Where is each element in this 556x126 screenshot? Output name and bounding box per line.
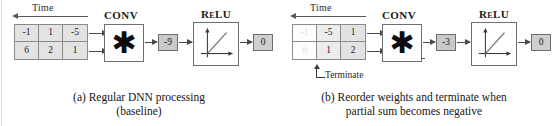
caption-a-line-1: (a) Regular DNN processing <box>0 90 278 104</box>
terminate-leader-vertical <box>316 70 317 77</box>
matrix-cell: 1 <box>39 25 63 42</box>
relu-block-b <box>471 22 517 66</box>
arrow-partialsum-to-relu-a <box>179 42 192 43</box>
time-arrowhead-left-icon <box>12 13 18 19</box>
scan-artifact-mark <box>421 58 425 59</box>
terminate-label: Terminate <box>325 70 363 80</box>
weight-matrix-a: -1 1 -5 6 2 1 <box>14 24 88 60</box>
relu-block-a <box>193 22 239 66</box>
caption-b-line-2: partial sum becomes negative <box>272 104 556 118</box>
time-line-a <box>18 16 88 17</box>
matrix-row: 6 1 2 <box>293 42 365 59</box>
caption-a: (a) Regular DNN processing (baseline) <box>0 90 278 118</box>
conv-title-b: CONV <box>382 9 416 21</box>
arrow-relu-to-output-a <box>240 42 252 43</box>
arrow-partialsum-to-relu-b <box>457 42 470 43</box>
time-label-a: Time <box>32 2 54 13</box>
matrix-row: 6 2 1 <box>15 42 87 59</box>
matrix-cell: -1 <box>15 25 39 42</box>
time-line-b <box>296 16 366 17</box>
matrix-row: -1 -5 1 <box>293 25 365 42</box>
relu-curve-icon <box>194 23 238 65</box>
caption-a-line-2: (baseline) <box>0 104 278 118</box>
matrix-cell: 1 <box>63 42 87 59</box>
relu-title-b: ReLU <box>479 8 509 20</box>
relu-curve-icon <box>472 23 516 65</box>
caption-b: (b) Reorder weights and terminate when p… <box>272 90 556 118</box>
conv-block-b: ✱ <box>382 24 422 62</box>
matrix-cell: -5 <box>317 25 341 42</box>
matrix-cell: 1 <box>341 25 365 42</box>
figure-dnn-early-termination: Time -1 1 -5 6 2 1 CONV ✱ <box>0 0 556 126</box>
relu-title-a: ReLU <box>201 8 231 20</box>
panel-a-regular-dnn: Time -1 1 -5 6 2 1 CONV ✱ <box>0 0 278 126</box>
panel-b-reorder-terminate: Time -1 -5 1 6 1 2 Terminate CONV <box>278 0 556 126</box>
time-arrowhead-left-icon <box>290 13 296 19</box>
matrix-cell: -5 <box>63 25 87 42</box>
matrix-cell: 2 <box>341 42 365 59</box>
matrix-cell: 1 <box>317 42 341 59</box>
arrow-relu-to-output-b <box>518 42 530 43</box>
arrow-conv-to-partialsum-a <box>145 42 157 43</box>
partial-sum-chip-b: -3 <box>436 34 456 51</box>
partial-sum-chip-a: -9 <box>158 34 178 51</box>
conv-title-a: CONV <box>104 9 138 21</box>
asterisk-icon: ✱ <box>383 25 421 61</box>
output-chip-a: 0 <box>253 34 273 51</box>
caption-b-line-1: (b) Reorder weights and terminate when <box>272 90 556 104</box>
terminate-leader-horizontal <box>316 77 325 78</box>
matrix-cell: 6 <box>15 42 39 59</box>
weight-matrix-b: -1 -5 1 6 1 2 <box>292 24 366 60</box>
matrix-cell-terminated: -1 <box>293 25 317 42</box>
conv-block-a: ✱ <box>104 24 144 62</box>
matrix-row: -1 1 -5 <box>15 25 87 42</box>
asterisk-icon: ✱ <box>105 25 143 61</box>
output-chip-b: 0 <box>531 34 551 51</box>
matrix-cell-terminated: 6 <box>293 42 317 59</box>
arrow-conv-to-partialsum-b <box>423 42 435 43</box>
matrix-cell: 2 <box>39 42 63 59</box>
time-label-b: Time <box>310 2 332 13</box>
